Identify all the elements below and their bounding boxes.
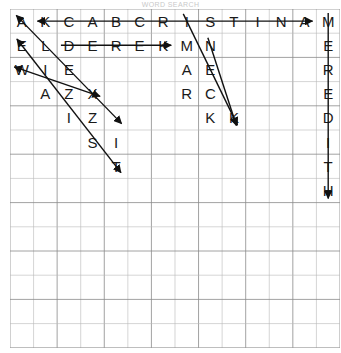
grid-cell-empty[interactable] xyxy=(269,130,293,154)
grid-cell-empty[interactable] xyxy=(199,227,223,251)
grid-cell-empty[interactable] xyxy=(34,275,58,299)
grid-cell-empty[interactable] xyxy=(151,203,175,227)
grid-letter[interactable]: E xyxy=(316,82,340,106)
grid-cell-empty[interactable] xyxy=(222,82,246,106)
grid-cell-empty[interactable] xyxy=(269,299,293,323)
grid-cell-empty[interactable] xyxy=(34,227,58,251)
grid-cell-empty[interactable] xyxy=(34,299,58,323)
grid-cell-empty[interactable] xyxy=(175,324,199,348)
grid-cell-empty[interactable] xyxy=(293,227,317,251)
grid-letter[interactable]: I xyxy=(316,130,340,154)
grid-cell-empty[interactable] xyxy=(316,227,340,251)
grid-cell-empty[interactable] xyxy=(293,82,317,106)
grid-cell-empty[interactable] xyxy=(34,324,58,348)
grid-cell-empty[interactable] xyxy=(293,154,317,178)
grid-letter[interactable]: M xyxy=(175,33,199,57)
grid-cell-empty[interactable] xyxy=(151,106,175,130)
grid-cell-empty[interactable] xyxy=(128,275,152,299)
grid-letter[interactable]: W xyxy=(10,57,34,81)
grid-cell-empty[interactable] xyxy=(128,203,152,227)
grid-letter[interactable]: R xyxy=(316,57,340,81)
grid-letter[interactable]: E xyxy=(316,33,340,57)
grid-cell-empty[interactable] xyxy=(199,154,223,178)
grid-cell-empty[interactable] xyxy=(151,227,175,251)
grid-cell-empty[interactable] xyxy=(293,106,317,130)
grid-cell-empty[interactable] xyxy=(316,324,340,348)
grid-cell-empty[interactable] xyxy=(293,299,317,323)
grid-letter[interactable]: K xyxy=(222,106,246,130)
grid-cell-empty[interactable] xyxy=(151,130,175,154)
grid-letter[interactable]: Z xyxy=(57,82,81,106)
grid-cell-empty[interactable] xyxy=(10,299,34,323)
grid-cell-empty[interactable] xyxy=(81,324,105,348)
grid-cell-empty[interactable] xyxy=(269,275,293,299)
grid-letter[interactable]: T xyxy=(316,154,340,178)
grid-letter[interactable]: I xyxy=(175,9,199,33)
grid-cell-empty[interactable] xyxy=(34,154,58,178)
grid-letter[interactable]: A xyxy=(293,9,317,33)
grid-cell-empty[interactable] xyxy=(222,203,246,227)
grid-cell-empty[interactable] xyxy=(151,178,175,202)
grid-letter[interactable]: D xyxy=(57,33,81,57)
grid-cell-empty[interactable] xyxy=(293,178,317,202)
grid-letter[interactable]: R xyxy=(104,33,128,57)
grid-letter[interactable]: M xyxy=(316,9,340,33)
grid-cell-empty[interactable] xyxy=(104,106,128,130)
grid-cell-empty[interactable] xyxy=(128,178,152,202)
grid-cell-empty[interactable] xyxy=(104,82,128,106)
grid-letter[interactable]: E xyxy=(128,33,152,57)
grid-cell-empty[interactable] xyxy=(81,57,105,81)
grid-letter[interactable]: C xyxy=(128,9,152,33)
grid-cell-empty[interactable] xyxy=(10,275,34,299)
grid-cell-empty[interactable] xyxy=(10,251,34,275)
grid-cell-empty[interactable] xyxy=(10,324,34,348)
grid-cell-empty[interactable] xyxy=(10,154,34,178)
grid-cell-empty[interactable] xyxy=(175,227,199,251)
grid-cell-empty[interactable] xyxy=(246,203,270,227)
grid-cell-empty[interactable] xyxy=(199,299,223,323)
grid-cell-empty[interactable] xyxy=(57,203,81,227)
grid-cell-empty[interactable] xyxy=(128,57,152,81)
grid-cell-empty[interactable] xyxy=(81,203,105,227)
grid-cell-empty[interactable] xyxy=(104,57,128,81)
grid-letter[interactable]: A xyxy=(34,82,58,106)
grid-cell-empty[interactable] xyxy=(151,324,175,348)
grid-cell-empty[interactable] xyxy=(57,227,81,251)
grid-cell-empty[interactable] xyxy=(34,130,58,154)
grid-cell-empty[interactable] xyxy=(128,227,152,251)
grid-cell-empty[interactable] xyxy=(269,203,293,227)
grid-cell-empty[interactable] xyxy=(246,324,270,348)
grid-cell-empty[interactable] xyxy=(151,57,175,81)
grid-cell-empty[interactable] xyxy=(34,251,58,275)
grid-cell-empty[interactable] xyxy=(57,251,81,275)
grid-cell-empty[interactable] xyxy=(222,299,246,323)
grid-cell-empty[interactable] xyxy=(269,106,293,130)
grid-cell-empty[interactable] xyxy=(151,154,175,178)
grid-cell-empty[interactable] xyxy=(34,178,58,202)
grid-letter[interactable]: A xyxy=(10,9,34,33)
grid-letter[interactable]: C xyxy=(57,9,81,33)
grid-letter[interactable]: I xyxy=(246,9,270,33)
grid-cell-empty[interactable] xyxy=(34,203,58,227)
grid-cell-empty[interactable] xyxy=(222,33,246,57)
grid-cell-empty[interactable] xyxy=(57,154,81,178)
grid-letter[interactable]: K xyxy=(34,9,58,33)
grid-cell-empty[interactable] xyxy=(151,82,175,106)
grid-letter[interactable]: A xyxy=(175,57,199,81)
grid-cell-empty[interactable] xyxy=(10,82,34,106)
grid-cell-empty[interactable] xyxy=(246,130,270,154)
grid-cell-empty[interactable] xyxy=(104,251,128,275)
grid-cell-empty[interactable] xyxy=(199,275,223,299)
grid-cell-empty[interactable] xyxy=(246,106,270,130)
grid-cell-empty[interactable] xyxy=(151,299,175,323)
grid-letter[interactable]: L xyxy=(34,33,58,57)
grid-cell-empty[interactable] xyxy=(222,130,246,154)
grid-cell-empty[interactable] xyxy=(81,178,105,202)
grid-letter[interactable]: E xyxy=(10,33,34,57)
grid-cell-empty[interactable] xyxy=(57,275,81,299)
grid-cell-empty[interactable] xyxy=(269,33,293,57)
grid-cell-empty[interactable] xyxy=(175,275,199,299)
grid-cell-empty[interactable] xyxy=(222,324,246,348)
grid-cell-empty[interactable] xyxy=(81,154,105,178)
grid-cell-empty[interactable] xyxy=(128,106,152,130)
